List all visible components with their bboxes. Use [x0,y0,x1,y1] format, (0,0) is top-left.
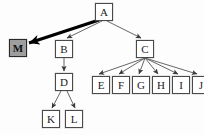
edges-group [29,20,197,108]
edge-c-to-i [145,58,178,74]
node-k[interactable]: K [42,110,60,128]
node-i[interactable]: I [172,76,190,94]
edge-d-to-k [52,91,61,108]
edge-c-to-j [145,58,197,74]
node-c[interactable]: C [136,40,154,58]
node-e[interactable]: E [92,76,110,94]
node-j[interactable]: J [192,76,204,94]
node-a[interactable]: A [95,3,113,21]
edge-c-to-e [99,58,145,74]
edge-c-to-g [139,58,145,74]
tree-diagram: AMBCDEFGHIJKL [0,0,204,135]
node-b[interactable]: B [55,40,73,58]
node-h[interactable]: H [152,76,170,94]
edge-a-to-c [107,21,141,38]
node-g[interactable]: G [132,76,150,94]
node-d[interactable]: D [55,73,73,91]
node-m[interactable]: M [9,39,27,57]
node-f[interactable]: F [112,76,130,94]
node-l[interactable]: L [65,110,83,128]
edge-d-to-l [67,91,75,108]
